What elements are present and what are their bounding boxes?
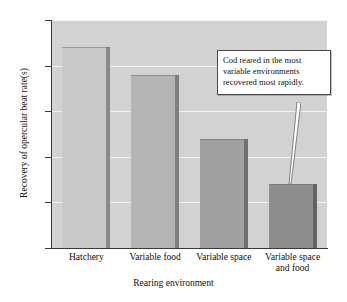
y-axis-title: Recovery of opercular beat rate(s) [19, 23, 29, 243]
x-tick-label-line: Variable space [248, 252, 338, 263]
x-tick-label: Variable spaceand food [248, 252, 338, 274]
annotation-line-3: recovered most rapidly. [223, 77, 325, 88]
y-tick-mark [45, 248, 52, 249]
x-axis-title: Rearing environment [0, 278, 347, 288]
x-tick-label-line: and food [248, 263, 338, 274]
y-tick-mark [45, 157, 52, 158]
y-tick-mark [45, 20, 52, 21]
y-tick-group: 25 [0, 20, 52, 21]
y-tick-mark [45, 202, 52, 203]
y-tick-mark [45, 111, 52, 112]
bar-chart-figure: 0510152025 Recovery of opercular beat ra… [0, 0, 347, 302]
annotation-line-1: Cod reared in the most [223, 55, 325, 66]
y-tick-group: 0 [0, 248, 52, 249]
y-tick-mark [45, 66, 52, 67]
annotation-callout: Cod reared in the most variable environm… [217, 50, 331, 95]
annotation-line-2: variable environments [223, 66, 325, 77]
